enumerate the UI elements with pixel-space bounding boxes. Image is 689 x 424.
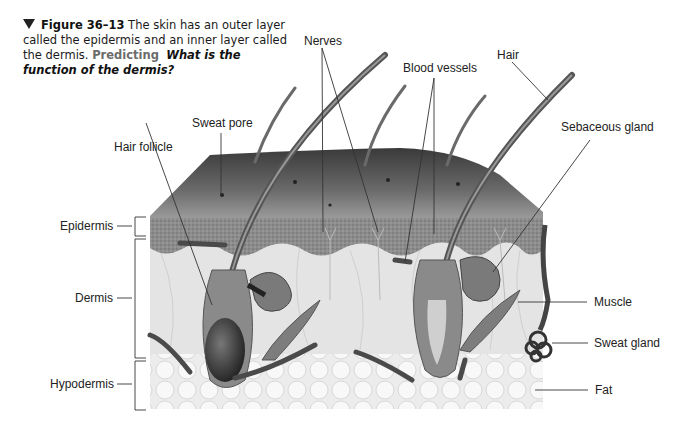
label-muscle: Muscle bbox=[594, 295, 632, 309]
label-dermis: Dermis bbox=[75, 291, 113, 305]
label-blood-vessels: Blood vessels bbox=[403, 61, 477, 75]
label-sebaceous-gland: Sebaceous gland bbox=[561, 120, 654, 134]
label-hypodermis: Hypodermis bbox=[50, 377, 114, 391]
label-hair-follicle: Hair follicle bbox=[114, 140, 173, 154]
label-sweat-gland: Sweat gland bbox=[594, 336, 660, 350]
label-epidermis: Epidermis bbox=[60, 219, 113, 233]
label-hair: Hair bbox=[497, 48, 519, 62]
label-sweat-pore: Sweat pore bbox=[192, 116, 253, 130]
label-nerves: Nerves bbox=[304, 34, 342, 48]
skin-cross-section-illustration bbox=[0, 0, 689, 424]
label-fat: Fat bbox=[595, 383, 612, 397]
